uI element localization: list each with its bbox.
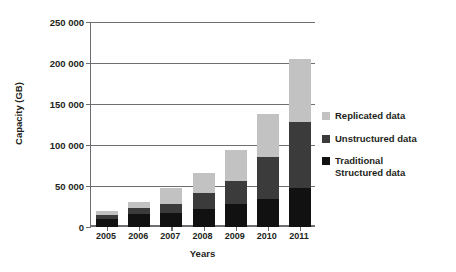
gridline: [91, 145, 315, 146]
bar-segment-unstructured: [193, 193, 215, 209]
y-axis-tick-label: 100 000: [22, 140, 84, 151]
chart-legend: Replicated dataUnstructured dataTraditio…: [322, 110, 456, 189]
y-axis-tick-labels: 050 000100 000150 000200 000250 000: [22, 0, 84, 272]
y-axis-tick-mark: [86, 63, 91, 64]
x-axis-tick-label-2011: 2011: [289, 231, 309, 241]
x-axis-tick-label-2010: 2010: [257, 231, 277, 241]
bar-2009: [225, 150, 247, 227]
bar-segment-traditional: [257, 199, 279, 227]
x-axis-title: Years: [90, 248, 315, 259]
y-axis-tick-label: 250 000: [22, 17, 84, 28]
y-axis-tick-label: 50 000: [22, 181, 84, 192]
y-axis-tick-mark: [86, 186, 91, 187]
gridline: [91, 104, 315, 105]
y-axis-tick-label: 200 000: [22, 58, 84, 69]
bar-2008: [193, 173, 215, 227]
bar-segment-traditional: [225, 204, 247, 227]
bar-segment-traditional: [160, 213, 182, 227]
bar-segment-traditional: [193, 209, 215, 227]
bar-segment-replicated: [193, 173, 215, 194]
y-axis-tick-mark: [86, 22, 91, 23]
bar-segment-unstructured: [257, 157, 279, 199]
y-axis-tick-mark: [86, 227, 91, 228]
bar-segment-replicated: [289, 59, 311, 122]
gridline: [91, 63, 315, 64]
legend-label: Replicated data: [335, 110, 405, 122]
bar-segment-unstructured: [225, 181, 247, 204]
plot-area: [90, 22, 315, 227]
bar-segment-replicated: [225, 150, 247, 181]
legend-item-traditional[interactable]: Traditional Structured data: [322, 155, 456, 178]
bar-segment-unstructured: [160, 204, 182, 213]
x-axis-tick-label-2008: 2008: [192, 231, 212, 241]
bar-2010: [257, 114, 279, 227]
bar-segment-traditional: [289, 188, 311, 227]
x-axis-tick-label-2007: 2007: [160, 231, 180, 241]
legend-item-replicated[interactable]: Replicated data: [322, 110, 456, 122]
legend-swatch-replicated-icon: [322, 112, 330, 120]
y-axis-tick-mark: [86, 104, 91, 105]
legend-label: Unstructured data: [335, 133, 417, 145]
bar-segment-unstructured: [289, 122, 311, 188]
x-axis-tick-label-2006: 2006: [128, 231, 148, 241]
bar-segment-replicated: [257, 114, 279, 157]
legend-item-unstructured[interactable]: Unstructured data: [322, 133, 456, 145]
x-axis-tick-label-2005: 2005: [96, 231, 116, 241]
bar-segment-traditional: [96, 219, 118, 227]
bar-2011: [289, 59, 311, 227]
bar-2007: [160, 188, 182, 227]
y-axis-tick-label: 0: [22, 222, 84, 233]
legend-swatch-traditional-icon: [322, 157, 330, 165]
bar-segment-replicated: [160, 188, 182, 204]
x-axis-tick-label-2009: 2009: [225, 231, 245, 241]
legend-label: Traditional Structured data: [335, 155, 405, 178]
bar-2006: [128, 202, 150, 227]
bar-chart: Capacity (GB) 050 000100 000150 000200 0…: [0, 0, 456, 272]
bar-segment-traditional: [128, 214, 150, 227]
legend-swatch-unstructured-icon: [322, 135, 330, 143]
bar-2005: [96, 211, 118, 227]
gridline: [91, 22, 315, 23]
y-axis-tick-mark: [86, 145, 91, 146]
y-axis-tick-label: 150 000: [22, 99, 84, 110]
